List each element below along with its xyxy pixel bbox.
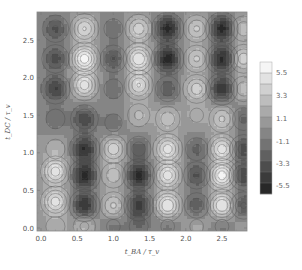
- colorbar-label: -5.5: [276, 182, 290, 190]
- y-tick-label: 2.5: [23, 37, 34, 45]
- colorbar-band: [260, 95, 272, 106]
- colorbar-label: 1.1: [276, 115, 287, 123]
- colorbar-label: -3.3: [276, 160, 290, 168]
- colorbar-band: [260, 73, 272, 84]
- colorbar-band: [260, 62, 272, 73]
- y-axis-label: t_DC / τ_v: [4, 104, 12, 139]
- x-tick-label: 2.5: [216, 235, 227, 243]
- colorbar-band: [260, 150, 272, 161]
- y-tick-label: 0.0: [23, 225, 34, 233]
- colorbar-legend: 5.53.31.1-1.1-3.3-5.5: [260, 62, 290, 194]
- x-tick-label: 0.5: [72, 235, 83, 243]
- colorbar-band: [260, 161, 272, 172]
- colorbar-band: [260, 84, 272, 95]
- y-tick-label: 2.0: [23, 74, 34, 82]
- x-tick-label: 1.5: [144, 235, 155, 243]
- colorbar-band: [260, 183, 272, 194]
- plot-area: [37, 12, 258, 238]
- colorbar-band: [260, 106, 272, 117]
- y-tick-label: 1.0: [23, 149, 34, 157]
- x-axis-label: t_BA / τ_v: [125, 248, 160, 256]
- x-tick-label: 2.0: [180, 235, 191, 243]
- colorbar-label: 5.5: [276, 69, 287, 77]
- colorbar-label: -1.1: [276, 138, 290, 146]
- x-tick-label: 0.0: [35, 235, 46, 243]
- colorbar-label: 3.3: [276, 92, 287, 100]
- y-tick-label: 0.5: [23, 187, 34, 195]
- colorbar-band: [260, 139, 272, 150]
- colorbar-band: [260, 117, 272, 128]
- colorbar-band: [260, 172, 272, 183]
- x-tick-label: 1.0: [108, 235, 119, 243]
- colorbar-band: [260, 128, 272, 139]
- contour-plot: 0.00.51.01.52.02.5 0.00.51.01.52.02.5 t_…: [0, 0, 302, 270]
- contour-field: [37, 12, 247, 231]
- y-tick-label: 1.5: [23, 112, 34, 120]
